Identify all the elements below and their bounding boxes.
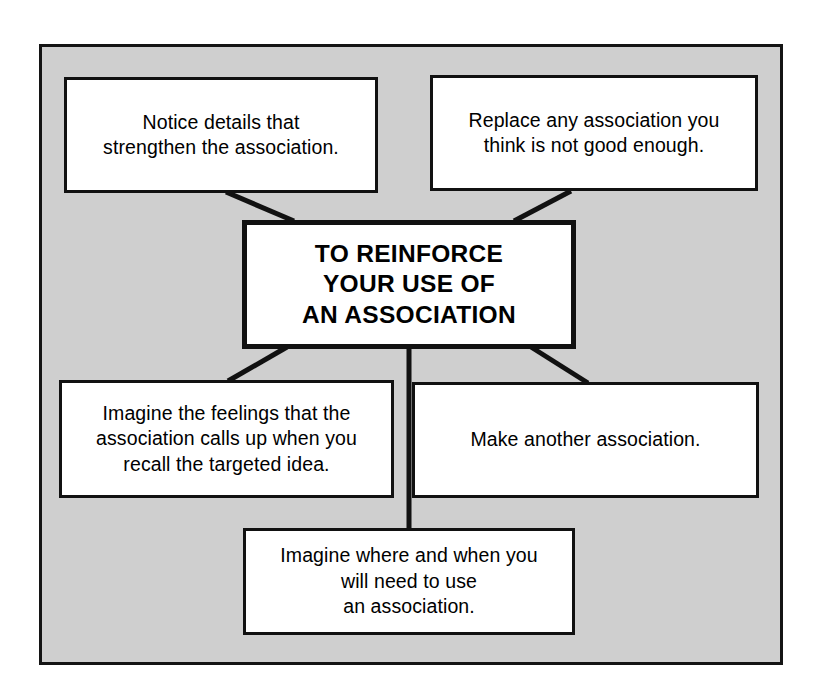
replace-association-node-label: Replace any association you think is not… — [433, 108, 755, 159]
imagine-where-node-label: Imagine where and when you will need to … — [246, 543, 572, 619]
make-another-node-label: Make another association. — [415, 427, 756, 452]
notice-details-node[interactable]: Notice details that strengthen the assoc… — [64, 77, 378, 193]
imagine-where-node[interactable]: Imagine where and when you will need to … — [243, 528, 575, 635]
diagram-root: Notice details that strengthen the assoc… — [0, 0, 821, 697]
make-another-node[interactable]: Make another association. — [412, 382, 759, 498]
center-node-label: TO REINFORCE YOUR USE OF AN ASSOCIATION — [247, 239, 571, 331]
center-node[interactable]: TO REINFORCE YOUR USE OF AN ASSOCIATION — [242, 220, 576, 349]
imagine-feelings-node[interactable]: Imagine the feelings that the associatio… — [59, 380, 394, 498]
replace-association-node[interactable]: Replace any association you think is not… — [430, 75, 758, 191]
imagine-feelings-node-label: Imagine the feelings that the associatio… — [62, 401, 391, 477]
notice-details-node-label: Notice details that strengthen the assoc… — [67, 110, 375, 161]
